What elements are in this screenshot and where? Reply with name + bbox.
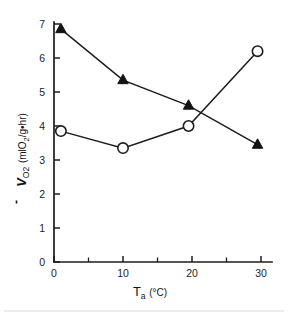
- x-axis-unit: (°C): [149, 287, 167, 298]
- y-tick-label-1: 1: [39, 222, 45, 234]
- y-tick-label-5: 5: [39, 86, 45, 98]
- data-point-circle: [183, 121, 193, 131]
- x-tick-label-0: 0: [51, 267, 57, 279]
- y-tick-label-6: 6: [39, 52, 45, 64]
- y-tick-label-3: 3: [39, 154, 45, 166]
- x-tick-label-10: 10: [117, 267, 129, 279]
- y-axis-unit-rest: /g: [17, 129, 28, 137]
- series-line-filled-triangle-series: [61, 29, 258, 145]
- y-axis-ticks: [54, 24, 60, 262]
- chart-figure: 01234567 0102030 VO2 (mlO2/g•hr) Ta (°C): [0, 0, 288, 316]
- data-point-circle: [252, 46, 262, 56]
- y-axis-unit-open: (ml: [17, 149, 28, 163]
- data-point-triangle: [118, 74, 128, 83]
- y-axis-tick-labels: 01234567: [39, 18, 45, 268]
- series-markers: [56, 23, 263, 153]
- y-tick-label-7: 7: [39, 18, 45, 30]
- x-tick-label-20: 20: [186, 267, 198, 279]
- y-tick-label-2: 2: [39, 188, 45, 200]
- y-axis-title: VO2 (mlO2/g•hr): [14, 113, 31, 203]
- y-tick-label-0: 0: [39, 256, 45, 268]
- x-axis-title: Ta (°C): [133, 284, 167, 301]
- chart-canvas: 01234567 0102030 VO2 (mlO2/g•hr) Ta (°C): [0, 0, 288, 316]
- series-lines: [61, 29, 258, 148]
- series-line-open-circle-series: [61, 51, 258, 148]
- svg-text:VO2 (mlO2/g•hr): VO2 (mlO2/g•hr): [14, 113, 31, 187]
- y-axis-unit-end: hr): [17, 113, 28, 125]
- x-axis-title-t: T: [133, 284, 141, 299]
- x-axis-tick-labels: 0102030: [51, 267, 267, 279]
- y-tick-label-4: 4: [39, 120, 45, 132]
- data-point-circle: [118, 143, 128, 153]
- data-point-triangle: [252, 139, 262, 148]
- x-tick-label-30: 30: [255, 267, 267, 279]
- data-point-circle: [56, 126, 66, 136]
